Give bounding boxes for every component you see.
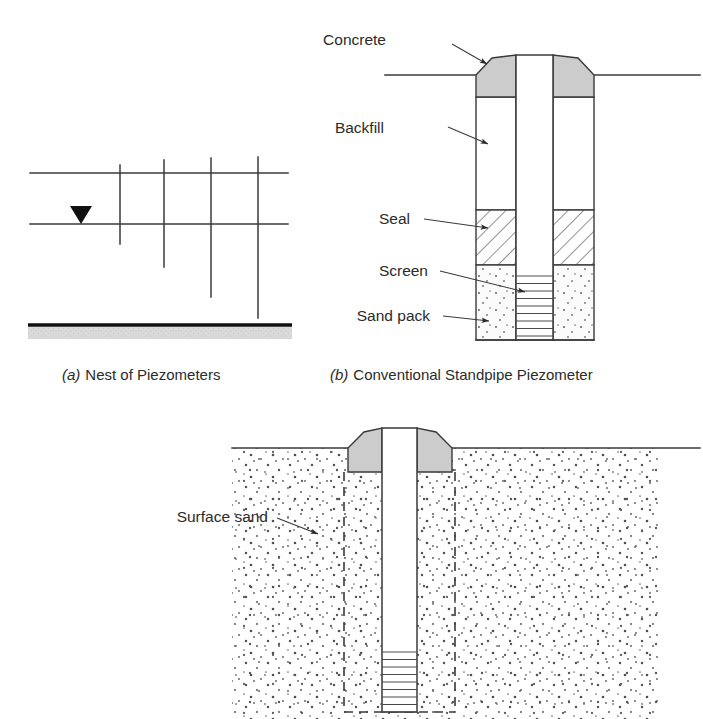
panel-a-caption-text: Nest of Piezometers [85,366,220,383]
panel-b-seal-right [553,210,594,265]
water-table-triangle-icon [70,206,92,224]
panel-b-caption-letter: (b) [330,366,348,383]
panel-b-backfill-right [553,97,594,210]
panel-b-label-sand-pack: Sand pack [357,307,430,324]
panel-c-concrete-cap-right [417,428,452,472]
panel-a-impermeable-band [28,327,292,339]
panel-b-backfill-left [476,97,516,210]
panel-b-label-concrete: Concrete [323,31,386,48]
panel-c-surface-sand-installation: Surface sand [177,428,700,719]
panel-b-concrete-cap-right [553,55,594,97]
panel-b-label-screen: Screen [379,262,428,279]
panel-b-standpipe-piezometer: Concrete Backfill Seal Screen Sand pack … [323,31,700,383]
panel-b-concrete-leader [452,44,487,64]
panel-c-concrete-cap-left [348,428,382,472]
panel-b-label-seal: Seal [379,210,410,227]
panel-b-standpipe [516,55,553,340]
panel-b-seal-left [476,210,516,265]
piezometer-figure: (a)Nest of Piezometers [0,0,703,719]
panel-b-caption: (b)Conventional Standpipe Piezometer [330,366,593,383]
panel-b-label-backfill: Backfill [335,119,384,136]
panel-b-caption-text: Conventional Standpipe Piezometer [353,366,592,383]
figure-canvas: (a)Nest of Piezometers [0,0,703,719]
panel-b-sand-pack-left [476,265,516,340]
panel-c-label-surface-sand: Surface sand [177,508,268,525]
panel-b-sand-pack-right [553,265,594,340]
panel-a-caption-letter: (a) [62,366,80,383]
panel-c-standpipe [382,428,417,712]
panel-a-nest-of-piezometers: (a)Nest of Piezometers [28,157,292,383]
panel-a-caption: (a)Nest of Piezometers [62,366,220,383]
panel-c-surface-sand-region-overlay [232,448,660,719]
